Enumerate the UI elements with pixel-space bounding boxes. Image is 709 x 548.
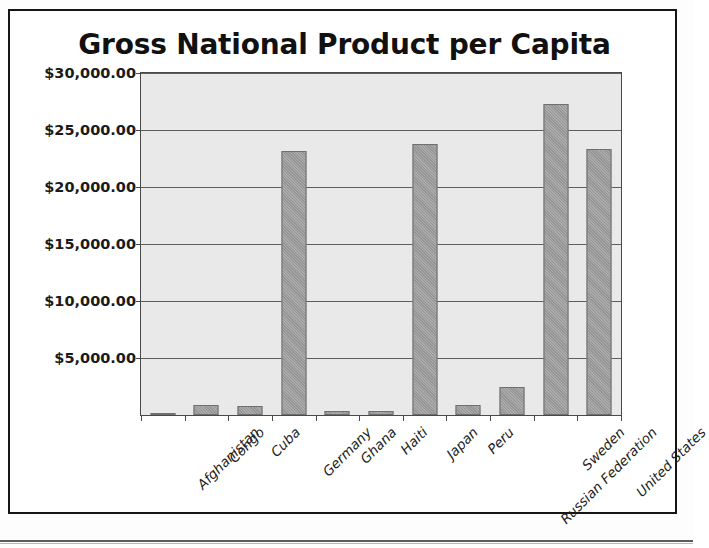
bar[interactable]: [499, 387, 524, 415]
page-title: Gross National Product per Capita: [10, 28, 679, 61]
bar-slot: [446, 73, 490, 415]
x-axis-tick-mark: [621, 415, 622, 421]
bar[interactable]: [412, 144, 437, 415]
y-axis-tick-label: $5,000.00: [54, 350, 136, 366]
y-axis-tick-label: $15,000.00: [44, 236, 136, 252]
x-axis-label: Cuba: [267, 424, 303, 460]
bar-slot: [185, 73, 229, 415]
bar-slot: [359, 73, 403, 415]
bar[interactable]: [587, 149, 612, 415]
bar-slot: [490, 73, 534, 415]
x-axis-label: Haiti: [397, 424, 430, 457]
y-axis-tick-label: $30,000.00: [44, 65, 136, 81]
y-axis-tick-label: $20,000.00: [44, 179, 136, 195]
page-bottom-rule-secondary: [0, 543, 693, 544]
y-axis-tick-label: $25,000.00: [44, 122, 136, 138]
plot-area: $30,000.00$25,000.00$20,000.00$15,000.00…: [140, 72, 622, 416]
page-bottom-rule: [0, 540, 693, 542]
bar-slot: [577, 73, 621, 415]
bar[interactable]: [456, 405, 481, 415]
x-axis-labels-group: AfghanistanCongoCubaGermanyGhanaHaitiJap…: [140, 415, 620, 520]
bar-slot: [141, 73, 185, 415]
bar[interactable]: [194, 405, 219, 415]
bar-slot: [534, 73, 578, 415]
bars-group: [141, 73, 621, 415]
bar[interactable]: [543, 104, 568, 415]
bar[interactable]: [238, 406, 263, 415]
x-axis-label: Japan: [443, 424, 481, 462]
x-axis-label: Peru: [484, 424, 517, 457]
bar-slot: [272, 73, 316, 415]
chart-frame: Gross National Product per Capita $30,00…: [8, 9, 677, 514]
bar-slot: [403, 73, 447, 415]
bar-slot: [228, 73, 272, 415]
y-axis-tick-label: $10,000.00: [44, 293, 136, 309]
bar[interactable]: [281, 151, 306, 415]
bar-slot: [316, 73, 360, 415]
